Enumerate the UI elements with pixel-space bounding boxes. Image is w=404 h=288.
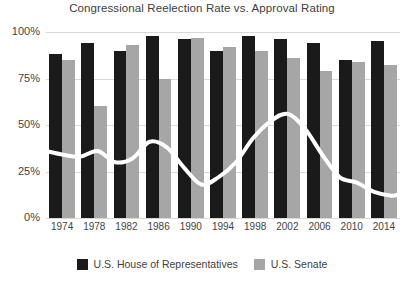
legend-label: U.S. Senate: [271, 258, 328, 270]
chart-container: Congressional Reelection Rate vs. Approv…: [0, 0, 404, 288]
approval-rating-line: [46, 32, 400, 218]
legend-item-senate[interactable]: U.S. Senate: [254, 258, 328, 270]
y-tick-label: 100%: [0, 25, 40, 37]
legend-swatch-house-icon: [77, 259, 88, 270]
y-tick-label: 0%: [0, 211, 40, 223]
x-tick-label: 2014: [364, 221, 404, 232]
legend-label: U.S. House of Representatives: [94, 258, 238, 270]
y-tick-label: 50%: [0, 118, 40, 130]
plot-area: [46, 32, 400, 218]
legend-swatch-senate-icon: [254, 259, 265, 270]
gridline: [46, 218, 400, 219]
y-tick-label: 75%: [0, 72, 40, 84]
chart-legend: U.S. House of RepresentativesU.S. Senate: [0, 258, 404, 270]
legend-item-house[interactable]: U.S. House of Representatives: [77, 258, 238, 270]
y-tick-label: 25%: [0, 165, 40, 177]
